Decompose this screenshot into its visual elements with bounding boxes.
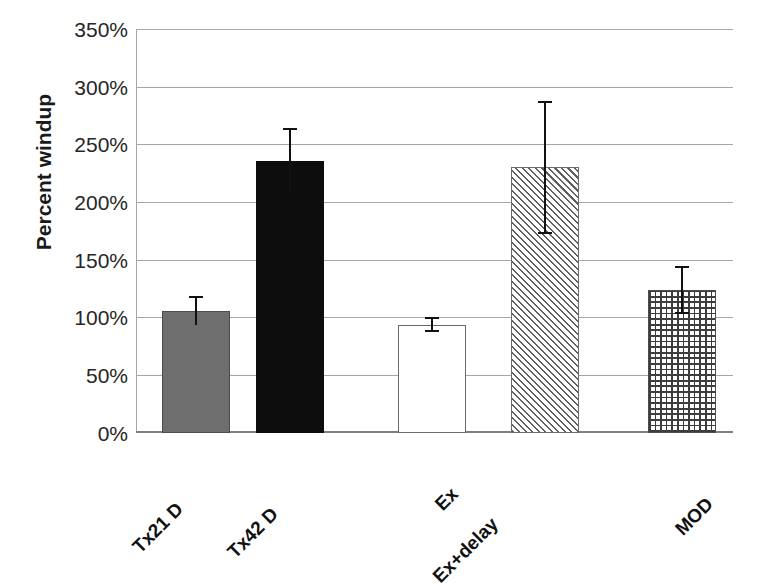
x-tick-label-mod: MOD bbox=[596, 493, 718, 587]
x-tick-label-tx21d: Tx21 D bbox=[66, 498, 188, 587]
